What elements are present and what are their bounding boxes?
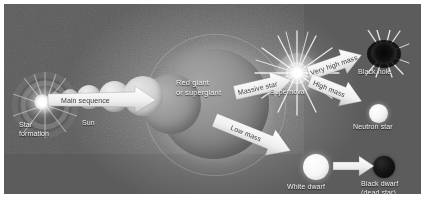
label-supernova: Supernova: [270, 88, 305, 97]
label-white-dwarf: White dwarf: [287, 183, 325, 192]
arrow-layer: Main sequence Massive star Very high mas…: [4, 4, 421, 194]
arrow-main-sequence: Main sequence: [48, 86, 156, 113]
label-star-formation: Starformation: [19, 121, 49, 138]
arrow-label-main-sequence: Main sequence: [61, 97, 110, 105]
arrow-white-to-black-dwarf: [333, 156, 374, 176]
diagram-plate: Main sequence Massive star Very high mas…: [4, 4, 421, 194]
stellar-evolution-figure: Main sequence Massive star Very high mas…: [0, 0, 426, 215]
arrow-low-mass: Low mass: [209, 107, 296, 164]
label-sun: Sun: [82, 119, 95, 128]
label-neutron-star: Neutron star: [353, 123, 393, 132]
label-red-giant: Red giantor supergiant: [176, 78, 221, 97]
arrow-massive-star: Massive star: [232, 67, 294, 105]
label-black-hole: Black hole: [358, 68, 391, 77]
label-black-dwarf: Black dwarf(dead star): [361, 180, 398, 194]
